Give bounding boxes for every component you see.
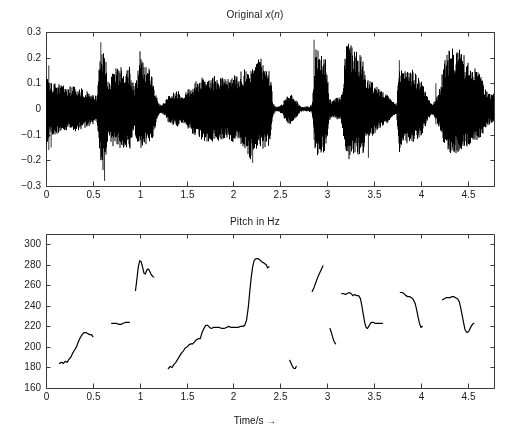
bottom-chart-title: Pitch in Hz bbox=[0, 216, 510, 227]
top-chart-title: Original x(n) bbox=[0, 9, 510, 20]
x-axis-label: Time/s → bbox=[0, 415, 510, 426]
top-title-prefix: Original bbox=[226, 9, 265, 20]
top-title-paren-close: ) bbox=[280, 9, 284, 20]
